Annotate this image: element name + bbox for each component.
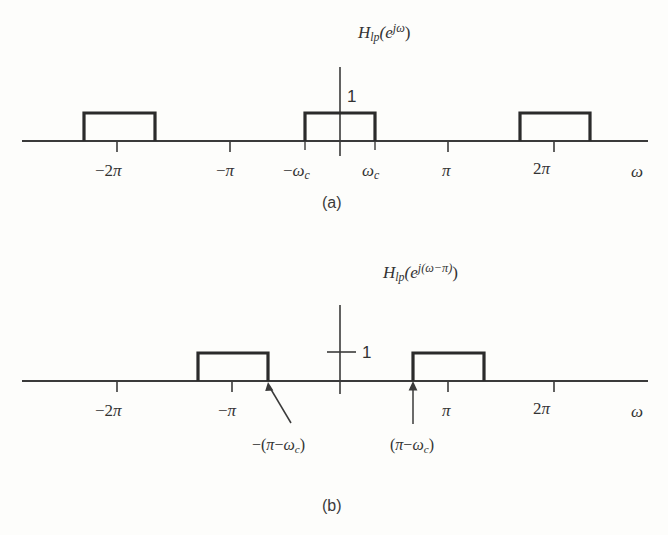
panel-b-right-annotation-arrow xyxy=(409,381,418,424)
panel-a-ticklabel-minus-2pi: −2π xyxy=(95,162,122,179)
panel-b-title: Hlp(ej(ω−π)) xyxy=(383,262,458,284)
panel-a-title-subscript: lp xyxy=(370,30,379,44)
panel-b-title-subscript: lp xyxy=(395,270,404,284)
panel-b-ticklabel-pi: π xyxy=(442,402,451,419)
panel-a-ticklabel-minus-pi: −π xyxy=(216,162,234,179)
panel-a-level-one-label: 1 xyxy=(347,88,356,105)
panel-b-left-annotation-arrow xyxy=(265,382,291,423)
panel-a-title-close: ) xyxy=(405,23,411,42)
panel-a-passband-right xyxy=(520,113,590,141)
panel-a-title: Hlp(ejω) xyxy=(358,22,410,44)
panel-a-axis-label-omega: ω xyxy=(631,163,643,180)
panel-a-ticklabel-minus-omega-c: −ωc xyxy=(283,162,310,182)
panel-b-ticklabel-minus-2pi: −2π xyxy=(95,402,122,419)
panel-a-caption: (a) xyxy=(322,195,342,211)
panel-a-ticklabel-omega-c: ωc xyxy=(362,162,379,182)
panel-b-passband-right xyxy=(413,353,484,381)
panel-b-title-open: (e xyxy=(405,263,418,282)
panel-b-caption: (b) xyxy=(322,498,342,514)
panel-b-passband-left xyxy=(198,353,268,381)
panel-b-annotation-left-label: −(π−ωc) xyxy=(252,437,305,455)
panel-a-title-H: H xyxy=(358,23,370,42)
panel-a-ticklabel-pi: π xyxy=(442,162,451,179)
panel-a-ticklabel-2pi: 2π xyxy=(533,160,550,177)
panel-b-ticklabel-minus-pi: −π xyxy=(218,402,236,419)
panel-a-graphics xyxy=(22,67,648,156)
panel-a-title-exponent: jω xyxy=(393,21,405,35)
panel-b-title-H: H xyxy=(383,263,395,282)
panel-b-level-one-label: 1 xyxy=(362,344,371,361)
panel-b-ticklabel-2pi: 2π xyxy=(533,400,550,417)
panel-b-title-close: ) xyxy=(452,263,458,282)
panel-b-title-exponent: j(ω−π) xyxy=(418,261,453,275)
panel-b-annotation-right-label: (π−ωc) xyxy=(390,437,434,455)
panel-a-passband-left xyxy=(84,113,155,141)
figure-graphics xyxy=(0,0,668,535)
panel-a-title-open: (e xyxy=(380,23,393,42)
figure-container: Hlp(ejω) 1 −2π −π −ωc ωc π 2π ω (a) Hlp(… xyxy=(0,0,668,535)
panel-b-axis-label-omega: ω xyxy=(631,403,643,420)
